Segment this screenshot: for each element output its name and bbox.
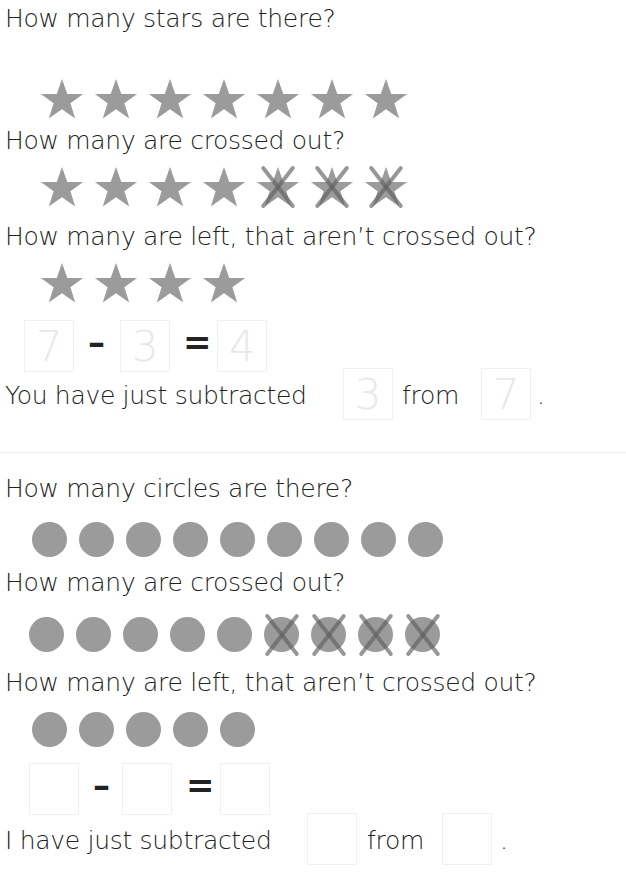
star-icon [202, 262, 246, 304]
star-icon [94, 78, 138, 120]
circle-icon [29, 617, 64, 652]
equation-box-subtrahend-2[interactable] [122, 763, 172, 815]
star-icon [148, 262, 192, 304]
question-total-circles: How many circles are there? [5, 474, 353, 503]
equation-box-difference[interactable]: 4 [217, 320, 267, 372]
circle-crossed-icon [311, 617, 346, 652]
circle-crossed-icon [358, 617, 393, 652]
equation-box-minuend[interactable]: 7 [24, 320, 74, 372]
star-icon [148, 78, 192, 120]
equation-box-subtrahend[interactable]: 3 [120, 320, 170, 372]
question-crossed-circles: How many are crossed out? [5, 568, 345, 597]
star-icon [40, 262, 84, 304]
question-crossed-stars: How many are crossed out? [5, 126, 345, 155]
sentence-box-subtracted[interactable]: 3 [343, 368, 393, 420]
question-total-stars: How many stars are there? [5, 4, 335, 33]
circle-crossed-icon [264, 617, 299, 652]
star-icon [310, 78, 354, 120]
circle-icon [126, 522, 161, 557]
star-icon [202, 166, 246, 208]
circle-icon [173, 522, 208, 557]
circle-icon [32, 712, 67, 747]
stars-row-crossed [40, 166, 418, 208]
star-crossed-icon [256, 166, 300, 208]
sentence-prefix-2: I have just subtracted [5, 826, 272, 855]
star-crossed-icon [310, 166, 354, 208]
circle-icon [32, 522, 67, 557]
equals-sign-2: = [186, 765, 215, 805]
star-icon [256, 78, 300, 120]
star-icon [94, 166, 138, 208]
stars-row-total [40, 78, 418, 120]
sentence-from-2: from [367, 826, 424, 855]
circle-icon [76, 617, 111, 652]
circle-crossed-icon [405, 617, 440, 652]
section-divider [0, 452, 626, 453]
circle-icon [408, 522, 443, 557]
circles-row-remaining [32, 712, 267, 747]
sentence-box-from[interactable]: 7 [481, 368, 531, 420]
star-icon [148, 166, 192, 208]
equation-box-difference-2[interactable] [220, 763, 270, 815]
minus-sign: – [88, 322, 105, 362]
question-remaining-circles: How many are left, that aren’t crossed o… [5, 668, 537, 697]
minus-sign-2: – [93, 765, 110, 805]
sentence-period-2: . [500, 826, 508, 855]
circle-icon [126, 712, 161, 747]
circle-icon [123, 617, 158, 652]
circle-icon [217, 617, 252, 652]
circle-icon [220, 522, 255, 557]
circle-icon [220, 712, 255, 747]
stars-row-remaining [40, 262, 256, 304]
circle-icon [267, 522, 302, 557]
sentence-period: . [537, 381, 545, 410]
star-icon [202, 78, 246, 120]
equation-box-minuend-2[interactable] [29, 763, 79, 815]
equals-sign: = [183, 322, 212, 362]
circles-row-crossed [29, 617, 452, 652]
sentence-from: from [402, 381, 459, 410]
question-remaining-stars: How many are left, that aren’t crossed o… [5, 222, 537, 251]
star-icon [40, 78, 84, 120]
circle-icon [314, 522, 349, 557]
star-icon [364, 78, 408, 120]
circle-icon [173, 712, 208, 747]
sentence-box-subtracted-2[interactable] [307, 813, 357, 865]
circle-icon [79, 522, 114, 557]
star-icon [94, 262, 138, 304]
star-crossed-icon [364, 166, 408, 208]
sentence-box-from-2[interactable] [442, 813, 492, 865]
circle-icon [361, 522, 396, 557]
sentence-prefix: You have just subtracted [5, 381, 307, 410]
circle-icon [170, 617, 205, 652]
circle-icon [79, 712, 114, 747]
star-icon [40, 166, 84, 208]
circles-row-total [32, 522, 455, 557]
